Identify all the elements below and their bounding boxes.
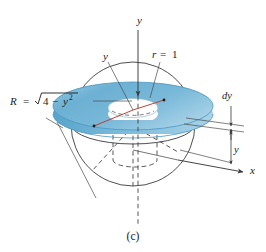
outer-radius-label: R = 4 − y 2 [9, 93, 78, 107]
inner-radius-equals: = [160, 48, 166, 60]
x-axis-inner [133, 150, 178, 160]
y-height-label: y [233, 144, 239, 155]
center-height-label: y [102, 50, 108, 62]
y-axis-label: y [136, 14, 142, 26]
bore-bottom-arc [113, 160, 157, 167]
radicand-exponent: 2 [69, 93, 73, 102]
outer-radius-equals: = [23, 95, 29, 107]
sphere-with-hole-diagram: y x [0, 0, 266, 252]
inner-radius-value: 1 [172, 48, 178, 60]
inner-radius-symbol: r [152, 48, 157, 60]
x-axis-label: x [249, 164, 255, 176]
x-axis [178, 160, 243, 172]
radicand-four: 4 [43, 95, 49, 107]
radicand-y: y [62, 95, 68, 107]
dy-label: dy [222, 90, 232, 101]
outer-radius-symbol: R [9, 95, 17, 107]
figure-container: y x [0, 0, 266, 252]
leader-y-bottom [180, 150, 232, 163]
radicand-minus: − [52, 95, 58, 107]
figure-caption: (c) [127, 230, 140, 243]
inner-radius-label: r = 1 [152, 48, 178, 60]
